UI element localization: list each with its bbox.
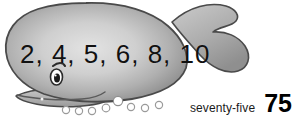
bubble-filled [113, 96, 122, 105]
bubble [62, 106, 69, 113]
bubble [155, 101, 162, 108]
bubble [141, 104, 148, 111]
answer-word: seventy-five [190, 102, 255, 114]
worksheet-canvas: 2, 4, 5, 6, 8, 10 seventy-five 75 [0, 0, 298, 120]
whale-eye-highlight [54, 74, 56, 76]
bubble [127, 103, 134, 110]
whale-jaw-dot [41, 98, 44, 101]
answer-number: 75 [264, 91, 292, 116]
bubble [102, 104, 110, 112]
answer-block: seventy-five 75 [190, 91, 292, 116]
bubble [75, 107, 82, 114]
bubble [88, 107, 95, 114]
number-sequence: 2, 4, 5, 6, 8, 10 [20, 38, 195, 70]
